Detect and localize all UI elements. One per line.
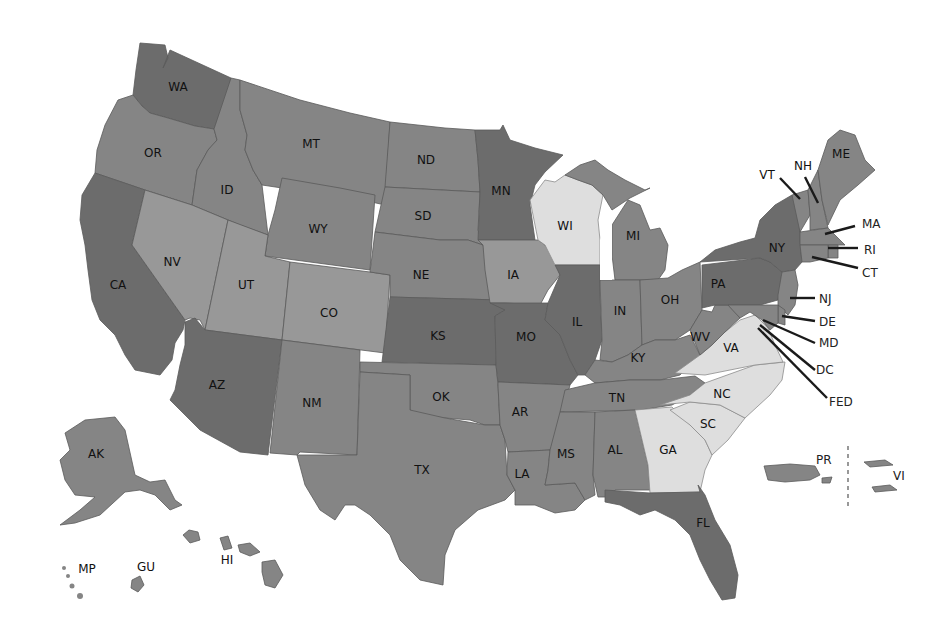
label-ca: CA [110, 278, 127, 292]
label-fed: FED [829, 395, 853, 409]
us-map: WA OR CA ID NV MT WY UT AZ CO NM ND SD N… [0, 0, 947, 643]
label-de: DE [819, 315, 836, 329]
label-la: LA [514, 467, 530, 481]
label-tn: TN [608, 391, 625, 405]
label-ga: GA [659, 443, 677, 457]
label-ct: CT [862, 266, 878, 280]
label-az: AZ [209, 378, 225, 392]
label-oh: OH [661, 293, 679, 307]
label-in: IN [614, 304, 627, 318]
lake-michigan [600, 220, 612, 280]
leader-de [782, 316, 815, 321]
label-nv: NV [163, 255, 181, 269]
label-wv: WV [690, 330, 711, 344]
label-va: VA [723, 341, 739, 355]
label-pa: PA [711, 277, 726, 291]
label-ut: UT [238, 278, 255, 292]
label-me: ME [832, 147, 850, 161]
label-nm: NM [302, 396, 321, 410]
leader-ct [812, 257, 858, 268]
state-ak[interactable] [60, 417, 182, 525]
label-co: CO [320, 306, 338, 320]
label-nd: ND [417, 153, 435, 167]
territory-vi-1[interactable] [864, 460, 893, 467]
label-ne: NE [413, 268, 430, 282]
label-id: ID [221, 183, 234, 197]
state-hi-3[interactable] [238, 543, 260, 556]
label-mn: MN [491, 184, 510, 198]
label-nh: NH [794, 159, 812, 173]
label-ok: OK [432, 390, 450, 404]
territory-mp-4[interactable] [77, 593, 83, 599]
label-mo: MO [516, 330, 536, 344]
label-hi: HI [221, 553, 234, 567]
label-ar: AR [512, 405, 529, 419]
territory-vi-2[interactable] [872, 485, 897, 492]
label-vt: VT [759, 168, 775, 182]
label-ks: KS [430, 329, 446, 343]
label-mp: MP [78, 562, 96, 576]
label-pr: PR [816, 453, 832, 467]
territory-pr-island[interactable] [822, 477, 832, 483]
state-hi-1[interactable] [183, 530, 200, 543]
label-ak: AK [88, 447, 105, 461]
label-wa: WA [168, 80, 188, 94]
state-hi-2[interactable] [220, 536, 232, 550]
territory-mp-3[interactable] [70, 584, 75, 589]
label-gu: GU [137, 560, 155, 574]
label-tx: TX [413, 463, 430, 477]
label-sc: SC [700, 417, 716, 431]
label-dc: DC [816, 363, 834, 377]
state-hi-4[interactable] [262, 560, 283, 588]
territory-gu[interactable] [131, 576, 144, 592]
state-az[interactable] [170, 318, 282, 455]
label-ma: MA [862, 217, 881, 231]
state-fl[interactable] [605, 485, 738, 600]
state-mi[interactable] [612, 200, 668, 280]
label-ky: KY [631, 351, 646, 365]
label-nc: NC [713, 387, 730, 401]
label-mt: MT [302, 137, 320, 151]
territory-mp-1[interactable] [62, 566, 66, 570]
label-sd: SD [415, 209, 432, 223]
label-mi: MI [626, 229, 640, 243]
label-wy: WY [308, 222, 328, 236]
label-fl: FL [696, 516, 710, 530]
label-or: OR [144, 146, 162, 160]
label-nj: NJ [819, 292, 832, 306]
label-il: IL [572, 315, 583, 329]
label-ia: IA [507, 268, 520, 282]
label-ms: MS [557, 447, 575, 461]
label-al: AL [608, 443, 623, 457]
label-ri: RI [864, 243, 876, 257]
territory-mp-2[interactable] [66, 574, 70, 578]
label-vi: VI [893, 469, 905, 483]
state-me[interactable] [818, 130, 875, 225]
territory-pr[interactable] [764, 464, 820, 482]
label-ny: NY [769, 241, 786, 255]
label-wi: WI [557, 219, 572, 233]
label-md: MD [819, 336, 839, 350]
